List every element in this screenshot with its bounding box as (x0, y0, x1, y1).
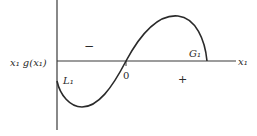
positive-sign: + (178, 73, 187, 86)
x-axis-label: x₁ (238, 56, 248, 67)
right-bound-label: G₁ (189, 48, 201, 59)
diagram-figure: x₁ g(x₁) x₁ 0 − + L₁ G₁ (0, 0, 257, 136)
negative-sign: − (84, 39, 94, 53)
origin-label: 0 (123, 70, 129, 81)
left-bound-label: L₁ (62, 75, 74, 86)
y-axis-label: x₁ g(x₁) (10, 57, 47, 68)
